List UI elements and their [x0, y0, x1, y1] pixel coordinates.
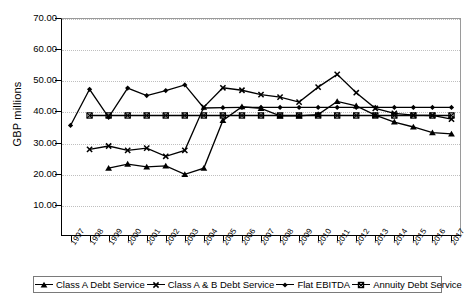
- y-axis-tick-label: 10.00: [5, 200, 57, 209]
- legend-marker-icon: [276, 280, 294, 290]
- data-point-diamond-marker: [277, 105, 282, 110]
- data-point-diamond-marker: [220, 105, 225, 110]
- y-axis-tick-label: 40.00: [5, 106, 57, 115]
- data-point-triangle-marker: [41, 281, 48, 287]
- legend-label: Class A Debt Service: [56, 279, 145, 290]
- data-point-cross-x-marker: [354, 90, 359, 95]
- line-chart: GBP millions 70.0060.0050.0040.0030.0020…: [0, 0, 475, 298]
- data-point-diamond-marker: [144, 93, 149, 98]
- series-0: [105, 98, 455, 177]
- data-point-diamond-marker: [296, 105, 301, 110]
- y-axis-tick-label: 70.00: [5, 13, 57, 22]
- data-point-cross-x-marker: [335, 72, 340, 77]
- legend-entry-0[interactable]: Class A Debt Service: [34, 279, 146, 290]
- data-point-diamond-marker: [335, 105, 340, 110]
- data-point-diamond-marker: [68, 123, 73, 128]
- data-point-diamond-marker: [392, 105, 397, 110]
- y-axis-tick-label: 30.00: [5, 138, 57, 147]
- legend-entry-1[interactable]: Class A & B Debt Service: [146, 279, 276, 290]
- legend-marker-icon: [35, 280, 53, 290]
- data-point-cross-x-marker: [153, 282, 158, 287]
- legend-marker-icon: [147, 280, 165, 290]
- chart-legend: Class A Debt ServiceClass A & B Debt Ser…: [33, 276, 442, 293]
- data-point-diamond-marker: [163, 88, 168, 93]
- data-series-layer: [61, 18, 461, 236]
- legend-marker-icon: [352, 280, 370, 290]
- legend-entry-2[interactable]: Flat EBITDA: [275, 279, 351, 290]
- data-point-diamond-marker: [430, 105, 435, 110]
- legend-label: Class A & B Debt Service: [168, 279, 275, 290]
- data-point-triangle-marker: [200, 165, 207, 171]
- data-point-diamond-marker: [411, 105, 416, 110]
- data-point-diamond-marker: [283, 282, 288, 287]
- y-axis-tick-label: 20.00: [5, 169, 57, 178]
- y-axis-tick-label: 60.00: [5, 44, 57, 53]
- series-2: [68, 82, 454, 128]
- data-point-diamond-marker: [449, 105, 454, 110]
- legend-label: Flat EBITDA: [297, 279, 350, 290]
- data-point-cross-x-marker: [316, 85, 321, 90]
- data-point-square-x-marker: [359, 282, 364, 287]
- data-point-diamond-marker: [316, 105, 321, 110]
- data-point-triangle-marker: [334, 98, 341, 104]
- legend-entry-3[interactable]: Annuity Debt Service: [351, 279, 463, 290]
- y-axis-tick-label: 50.00: [5, 75, 57, 84]
- legend-label: Annuity Debt Service: [373, 279, 462, 290]
